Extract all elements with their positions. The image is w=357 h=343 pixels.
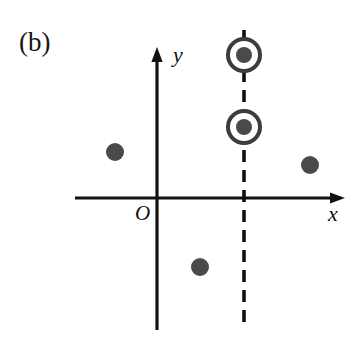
circled-data-point-middle <box>228 111 260 143</box>
origin-label: O <box>135 203 150 224</box>
figure-panel-b: (b) y x O <box>0 0 357 343</box>
highlight-core-top <box>236 47 252 63</box>
x-axis <box>75 192 345 203</box>
y-axis <box>151 47 162 330</box>
x-axis-label: x <box>328 203 338 225</box>
y-axis-arrowhead <box>151 47 162 62</box>
panel-label: (b) <box>19 29 50 56</box>
circled-data-point-top <box>228 39 260 71</box>
y-axis-label: y <box>173 44 183 66</box>
data-point-upper-right <box>301 156 319 174</box>
data-point-lower-right <box>191 258 209 276</box>
highlight-core-middle <box>236 119 252 135</box>
data-point-upper-left <box>106 143 124 161</box>
